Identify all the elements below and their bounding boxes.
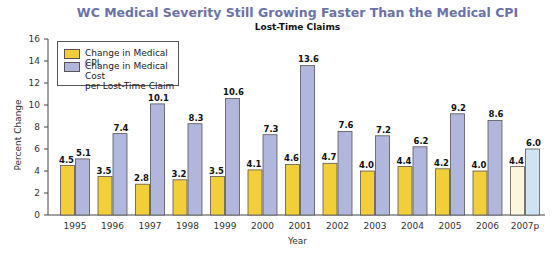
bar-value-label: 4.6	[284, 153, 299, 163]
bar-cpi	[511, 167, 525, 215]
x-tick-label: 2004	[401, 221, 424, 231]
x-tick-label: 2007p	[511, 221, 540, 231]
x-tick-label: 2000	[251, 221, 274, 231]
bar-value-label: 7.3	[263, 124, 278, 134]
bar-cost	[301, 65, 315, 215]
y-tick-label: 8	[34, 122, 40, 132]
bar-value-label: 4.7	[321, 152, 336, 162]
bar-cpi	[473, 171, 487, 215]
bar-chart: 02468101214164.55.119953.57.419962.810.1…	[0, 0, 555, 253]
bar-cost	[263, 135, 277, 215]
bar-cost	[451, 114, 465, 215]
legend: Change in Medical CPI Change in Medical …	[57, 41, 179, 86]
bar-cpi	[136, 184, 150, 215]
bar-cpi	[436, 169, 450, 215]
x-tick-label: 2002	[326, 221, 349, 231]
bar-cost	[376, 136, 390, 215]
x-tick-label: 1997	[139, 221, 162, 231]
bar-cost	[413, 147, 427, 215]
bar-cost	[151, 104, 165, 215]
y-tick-label: 14	[29, 56, 41, 66]
bar-value-label: 9.2	[451, 103, 466, 113]
bar-cpi	[286, 164, 300, 215]
bar-cost	[526, 149, 540, 215]
bar-cpi	[61, 166, 75, 216]
bar-cpi	[323, 163, 337, 215]
x-tick-label: 1996	[101, 221, 124, 231]
bar-value-label: 2.8	[134, 173, 149, 183]
bar-value-label: 8.6	[488, 109, 503, 119]
bar-value-label: 8.3	[188, 113, 203, 123]
x-tick-label: 2001	[289, 221, 312, 231]
bar-cpi	[98, 177, 112, 216]
bar-value-label: 3.5	[96, 166, 111, 176]
x-tick-label: 2003	[364, 221, 387, 231]
bar-value-label: 13.6	[298, 54, 319, 64]
x-tick-label: 2006	[476, 221, 499, 231]
bar-cost	[488, 120, 502, 215]
x-tick-label: 2005	[439, 221, 462, 231]
bar-cpi	[361, 171, 375, 215]
y-tick-label: 4	[34, 166, 40, 176]
y-tick-label: 16	[29, 34, 41, 44]
y-tick-label: 6	[34, 144, 40, 154]
bar-value-label: 7.6	[338, 120, 353, 130]
bar-value-label: 3.5	[209, 166, 224, 176]
bar-value-label: 10.1	[148, 93, 169, 103]
bar-cost	[188, 124, 202, 215]
bar-cost	[76, 159, 90, 215]
bar-value-label: 4.1	[246, 159, 261, 169]
x-tick-label: 1999	[214, 221, 237, 231]
bar-value-label: 4.0	[471, 160, 486, 170]
bar-value-label: 10.6	[223, 87, 244, 97]
y-tick-label: 2	[34, 188, 40, 198]
x-tick-label: 1998	[176, 221, 199, 231]
bar-value-label: 4.4	[396, 156, 411, 166]
legend-label-cost: Change in Medical Cost per Lost-Time Cla…	[85, 61, 178, 91]
bar-cpi	[211, 177, 225, 216]
bar-value-label: 7.4	[113, 123, 128, 133]
bar-cpi	[398, 167, 412, 215]
legend-item-cost: Change in Medical Cost per Lost-Time Cla…	[64, 61, 178, 91]
bar-cpi	[173, 180, 187, 215]
legend-swatch-cpi	[64, 49, 80, 59]
bar-value-label: 4.0	[359, 160, 374, 170]
bar-cost	[338, 131, 352, 215]
bar-value-label: 6.2	[413, 136, 428, 146]
bar-value-label: 4.4	[509, 156, 524, 166]
y-tick-label: 12	[29, 78, 40, 88]
bar-value-label: 6.0	[526, 138, 541, 148]
bar-value-label: 7.2	[376, 125, 391, 135]
y-tick-label: 10	[29, 100, 41, 110]
bar-cost	[226, 98, 240, 215]
bar-value-label: 4.5	[59, 155, 74, 165]
bar-value-label: 4.2	[434, 158, 449, 168]
bar-cost	[113, 134, 127, 215]
bar-value-label: 5.1	[76, 148, 91, 158]
x-tick-label: 1995	[64, 221, 87, 231]
y-tick-label: 0	[34, 210, 40, 220]
bar-cpi	[248, 170, 262, 215]
bar-value-label: 3.2	[171, 169, 186, 179]
legend-swatch-cost	[64, 62, 80, 72]
